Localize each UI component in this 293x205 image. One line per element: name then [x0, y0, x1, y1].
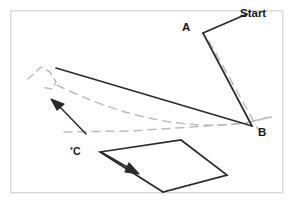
segment-a-to-b — [203, 33, 252, 126]
arrow-group — [51, 99, 139, 174]
dashed-hook-path — [28, 67, 56, 89]
arrow-up-left-icon — [51, 99, 86, 134]
figure-canvas: Start A B C — [0, 0, 293, 205]
dashed-sweep-path — [57, 85, 271, 125]
figure-border — [11, 11, 283, 193]
label-point-c: C — [73, 146, 81, 157]
dashed-lower-path — [64, 123, 248, 132]
dashed-ab-parallel-path — [209, 41, 259, 131]
label-point-b: B — [258, 127, 266, 139]
label-start: Start — [240, 8, 266, 20]
arrow-down-right-icon — [101, 152, 139, 174]
lower-quadrilateral — [100, 140, 227, 192]
diagram-drawing — [0, 0, 293, 205]
solid-path-group — [56, 14, 252, 192]
dashed-path-group — [28, 41, 272, 132]
label-point-a: A — [182, 22, 190, 34]
segment-b-to-left — [56, 68, 252, 126]
